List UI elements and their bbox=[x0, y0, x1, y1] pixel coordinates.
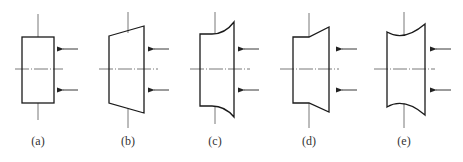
panel-label-e: (e) bbox=[384, 134, 424, 149]
double-concave-profile bbox=[387, 24, 425, 115]
panel-label-d: (d) bbox=[289, 134, 329, 149]
rectangle-profile bbox=[22, 37, 54, 103]
panel-b bbox=[99, 12, 169, 128]
panel-c bbox=[190, 12, 259, 124]
panel-label-b: (b) bbox=[108, 134, 148, 149]
stepped-taper-profile bbox=[293, 27, 329, 112]
trapezoid-profile bbox=[109, 26, 144, 113]
panel-label-c: (c) bbox=[195, 134, 235, 149]
panel-label-a: (a) bbox=[18, 134, 58, 149]
panel-a bbox=[15, 14, 78, 120]
concave-profile bbox=[200, 22, 234, 117]
panel-d bbox=[280, 13, 357, 128]
panel-e bbox=[374, 12, 451, 128]
